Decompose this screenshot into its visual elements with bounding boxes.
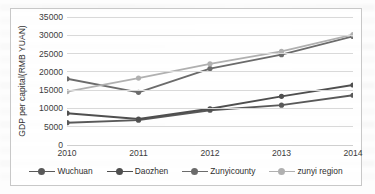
legend-marker-icon [278,168,285,175]
y-axis-tick: 30000 [39,30,63,40]
gridline [67,126,353,127]
x-axis-tick: 2012 [200,148,219,158]
x-axis-tick: 2014 [343,148,362,158]
gridline [67,71,353,72]
y-axis-tick: 5000 [44,122,63,132]
y-axis-tick: 25000 [39,49,63,59]
gridline [67,90,353,91]
legend-label: Daozhen [135,166,169,176]
legend-item[interactable]: Daozhen [107,166,169,176]
gridline [67,145,353,146]
data-point [67,120,70,125]
gridline [67,53,353,54]
gridline [67,108,353,109]
legend-label: Wuchuan [57,166,92,176]
legend-marker-icon [116,168,123,175]
data-point [67,76,70,81]
legend-swatch [269,167,295,176]
x-axis-tick-labels: 20102011201220132014 [67,148,353,162]
data-point [279,94,284,99]
legend-item[interactable]: zunyi region [269,166,342,176]
x-axis-tick: 2010 [57,148,76,158]
data-point [207,61,212,66]
plot-area [67,17,353,145]
legend-label: Zunyicounty [210,166,255,176]
y-axis-tick-labels: 35000300002500020000150001000050000 [29,17,65,145]
chart-legend: WuchuanDaozhenZunyicountyzunyi region [11,163,361,179]
legend-marker-icon [38,168,45,175]
legend-item[interactable]: Zunyicounty [182,166,255,176]
x-axis-tick: 2013 [272,148,291,158]
chart-container: GDP per capital(RMB YUAN) 35000300002500… [10,8,362,186]
gridline [67,17,353,18]
data-point [67,111,70,116]
y-axis-tick: 35000 [39,12,63,22]
y-axis-tick: 10000 [39,103,63,113]
plot-wrapper: GDP per capital(RMB YUAN) 35000300002500… [11,9,361,185]
data-point [350,82,353,87]
y-axis-tick: 20000 [39,67,63,77]
data-point [136,75,141,80]
legend-marker-icon [191,168,198,175]
legend-label: zunyi region [297,166,342,176]
legend-item[interactable]: Wuchuan [29,166,92,176]
y-axis-title: GDP per capital(RMB YUAN) [15,17,29,145]
data-point [350,93,353,98]
y-axis-title-text: GDP per capital(RMB YUAN) [17,25,27,136]
legend-swatch [29,167,55,176]
legend-swatch [182,167,208,176]
data-point [136,116,141,121]
gridline [67,35,353,36]
y-axis-tick: 15000 [39,85,63,95]
legend-swatch [107,167,133,176]
x-axis-tick: 2011 [129,148,147,158]
